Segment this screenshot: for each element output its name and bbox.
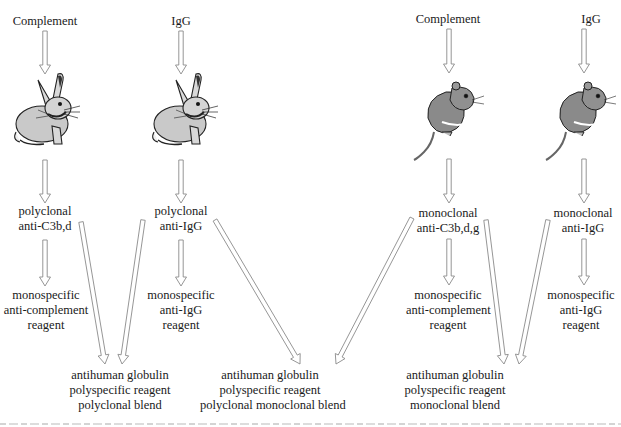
antibody-label-monoclonal-anti-c3bdg: monoclonal anti-C3b,d,g [408,206,488,236]
monospecific-label-anti-igg-1: monospecific anti-IgG reagent [140,288,222,333]
reagent-line: reagent [140,318,222,333]
antigen-label-complement-1: Complement [0,14,90,29]
reagent-line: monospecific [541,288,621,303]
reagent-line: reagent [406,318,490,333]
reagent-line: monospecific [0,288,92,303]
reagent-line: anti-complement [406,303,490,318]
blend-label-polyclonal: antihuman globulin polyspecific reagent … [55,368,185,413]
arrow-to-monospecific-anti-complement-1 [40,240,51,286]
blend-label-monoclonal: antihuman globulin polyspecific reagent … [395,368,515,413]
blend-label-polyclonal-monoclonal: antihuman globulin polyspecific reagent … [200,368,340,413]
antigen-label-igg-1: IgG [150,14,212,29]
blend-line: polyspecific reagent [55,383,185,398]
monospecific-label-anti-igg-2: monospecific anti-IgG reagent [541,288,621,333]
mouse-icon [412,80,490,162]
blend-line: polyspecific reagent [395,383,515,398]
arrow-mouse-to-monoclonal-anti-igg [579,159,590,203]
antibody-label-polyclonal-anti-c3bd: polyclonal anti-C3b,d [0,204,90,234]
reagent-line: anti-IgG [541,303,621,318]
antigen-label-igg-2: IgG [561,12,621,27]
arrow-rabbit-to-polyclonal-anti-c3bd [40,160,51,203]
antibody-label-polyclonal-anti-igg: polyclonal anti-IgG [140,204,222,234]
reagent-line: monospecific [140,288,222,303]
arrow-to-monospecific-anti-complement-2 [444,239,455,285]
antibody-specificity: anti-IgG [545,221,621,236]
reagent-line: reagent [0,318,92,333]
blend-line: polyclonal monoclonal blend [200,398,340,413]
antibody-specificity: anti-IgG [140,219,222,234]
cropped-caption-remnant [0,421,621,427]
monospecific-label-anti-complement-1: monospecific anti-complement reagent [0,288,92,333]
reagent-line: anti-IgG [140,303,222,318]
antibody-label-monoclonal-anti-igg: monoclonal anti-IgG [545,206,621,236]
antigen-label-complement-2: Complement [408,12,488,27]
antibody-type: polyclonal [140,204,222,219]
blend-line: monoclonal blend [395,398,515,413]
antibody-type: monoclonal [545,206,621,221]
rabbit-icon [8,70,88,150]
monospecific-label-anti-complement-2: monospecific anti-complement reagent [406,288,490,333]
arrows-layer [0,0,621,427]
antibody-specificity: anti-C3b,d [0,219,90,234]
antibody-type: polyclonal [0,204,90,219]
antibody-specificity: anti-C3b,d,g [408,221,488,236]
blend-line: antihuman globulin [200,368,340,383]
rabbit-icon [146,70,226,150]
reagent-line: monospecific [406,288,490,303]
blend-line: antihuman globulin [395,368,515,383]
reagent-line: reagent [541,318,621,333]
arrow-anti-c3bdg-to-polyclonal-monoclonal-blend [335,217,414,364]
arrow-igg-to-mouse [579,29,590,73]
blend-line: antihuman globulin [55,368,185,383]
mouse-icon [544,80,621,162]
blend-line: polyspecific reagent [200,383,340,398]
arrow-complement-to-rabbit [40,31,51,74]
reagent-line: anti-complement [0,303,92,318]
arrow-igg-to-rabbit [176,31,187,74]
arrow-to-monospecific-anti-igg-2 [579,239,590,285]
antibody-type: monoclonal [408,206,488,221]
arrow-complement-to-mouse [444,29,455,73]
blend-line: polyclonal blend [55,398,185,413]
arrow-rabbit-to-polyclonal-anti-igg [176,160,187,203]
arrow-to-monospecific-anti-igg-1 [176,240,187,286]
arrow-anti-igg-to-polyclonal-monoclonal-blend [213,219,300,364]
arrow-mouse-to-monoclonal-anti-c3bdg [444,159,455,203]
